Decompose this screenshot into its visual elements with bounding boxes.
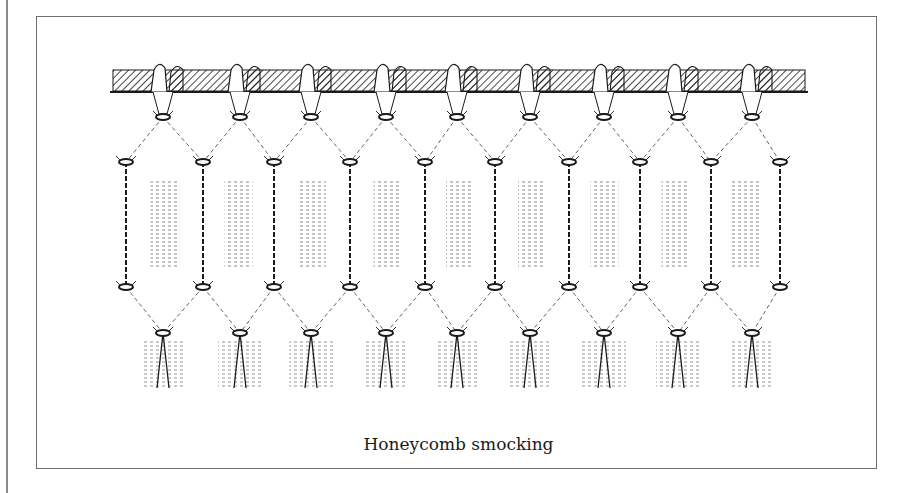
honeycomb-smocking-illustration	[0, 0, 917, 493]
honeycomb-cells	[126, 117, 780, 388]
figure-caption: Honeycomb smocking	[0, 434, 917, 454]
